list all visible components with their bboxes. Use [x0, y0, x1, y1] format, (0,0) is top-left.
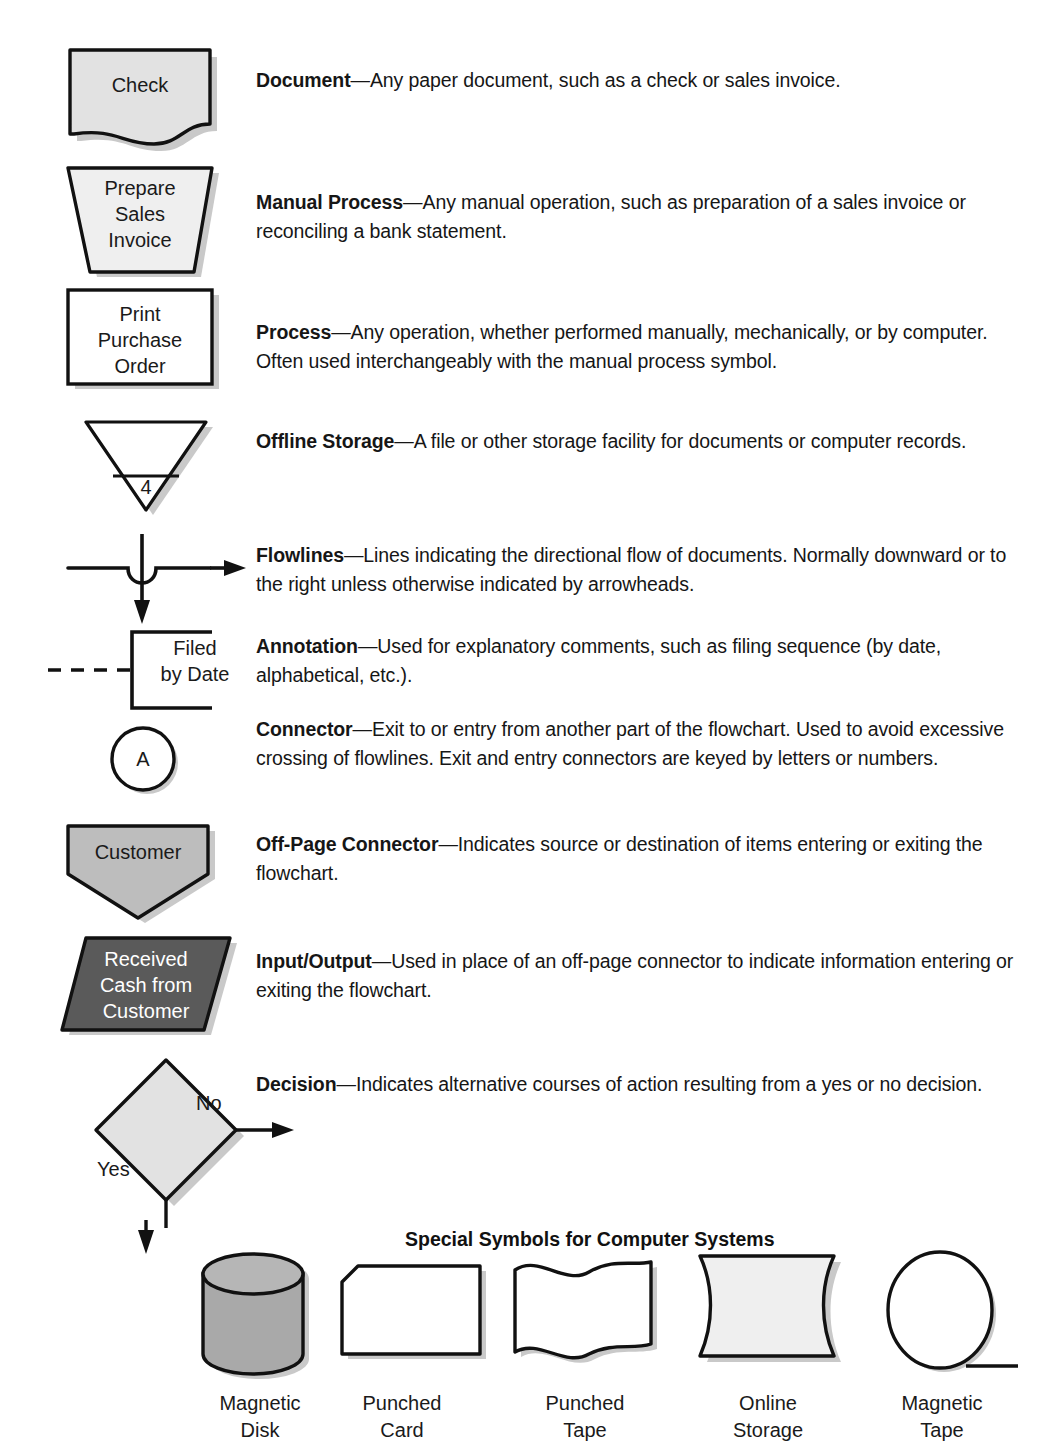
manual-process-term: Manual Process [256, 191, 403, 213]
process-body: Any operation, whether performed manuall… [256, 321, 988, 372]
document-dash: — [351, 69, 370, 91]
flowlines-symbol [50, 520, 250, 630]
decision-body: Indicates alternative courses of action … [356, 1073, 982, 1095]
annotation-dash: — [358, 635, 377, 657]
annotation-term: Annotation [256, 635, 358, 657]
input-output-dash: — [372, 950, 391, 972]
off-page-connector-description: Off-Page Connector—Indicates source or d… [256, 830, 1016, 888]
document-term: Document [256, 69, 351, 91]
magnetic-disk-symbol [195, 1252, 325, 1380]
process-symbol: Print Purchase Order [60, 284, 230, 390]
connector-dash: — [353, 718, 372, 740]
offline-storage-body: A file or other storage facility for doc… [414, 430, 967, 452]
magnetic-tape-caption: Magnetic Tape [862, 1390, 1022, 1444]
punched-card-caption: Punched Card [322, 1390, 482, 1444]
decision-yes-arrowhead [78, 1220, 138, 1256]
offline-storage-term: Offline Storage [256, 430, 394, 452]
manual-process-description: Manual Process—Any manual operation, suc… [256, 188, 1016, 246]
decision-yes-label: Yes [97, 1158, 130, 1181]
document-description: Document—Any paper document, such as a c… [256, 66, 1016, 95]
decision-dash: — [336, 1073, 355, 1095]
annotation-description: Annotation—Used for explanatory comments… [256, 632, 1016, 690]
flowlines-description: Flowlines—Lines indicating the direction… [256, 541, 1016, 599]
connector-term: Connector [256, 718, 353, 740]
process-term: Process [256, 321, 331, 343]
online-storage-caption: Online Storage [688, 1390, 848, 1444]
document-body: Any paper document, such as a check or s… [370, 69, 841, 91]
online-storage-symbol [688, 1248, 848, 1378]
manual-process-dash: — [403, 191, 422, 213]
off-page-connector-symbol: Customer [58, 818, 238, 928]
flowlines-body: Lines indicating the directional flow of… [256, 544, 1006, 595]
flowchart-symbols-legend: Check Document—Any paper document, such … [0, 0, 1041, 1452]
document-symbol: Check [60, 42, 230, 152]
offline-storage-dash: — [394, 430, 413, 452]
input-output-symbol: Received Cash from Customer [58, 930, 248, 1040]
process-dash: — [331, 321, 350, 343]
flowlines-term: Flowlines [256, 544, 344, 566]
process-description: Process—Any operation, whether performed… [256, 318, 1016, 376]
input-output-term: Input/Output [256, 950, 372, 972]
flowlines-dash: — [344, 544, 363, 566]
offline-storage-description: Offline Storage—A file or other storage … [256, 427, 1016, 456]
off-page-connector-term: Off-Page Connector [256, 833, 438, 855]
offline-storage-symbol: 4 [60, 412, 230, 516]
connector-symbol: A [100, 716, 200, 806]
decision-description: Decision—Indicates alternative courses o… [256, 1070, 1016, 1099]
off-page-connector-dash: — [438, 833, 457, 855]
connector-description: Connector—Exit to or entry from another … [256, 715, 1016, 773]
decision-no-label: No [196, 1092, 222, 1115]
magnetic-tape-symbol [872, 1248, 1022, 1378]
punched-tape-caption: Punched Tape [505, 1390, 665, 1444]
annotation-symbol: Filed by Date [40, 620, 260, 720]
decision-term: Decision [256, 1073, 336, 1095]
magnetic-disk-caption: Magnetic Disk [175, 1390, 345, 1444]
punched-card-symbol [332, 1260, 492, 1380]
input-output-description: Input/Output—Used in place of an off-pag… [256, 947, 1016, 1005]
manual-process-symbol: Prepare Sales Invoice [60, 162, 230, 282]
punched-tape-symbol [505, 1252, 665, 1382]
